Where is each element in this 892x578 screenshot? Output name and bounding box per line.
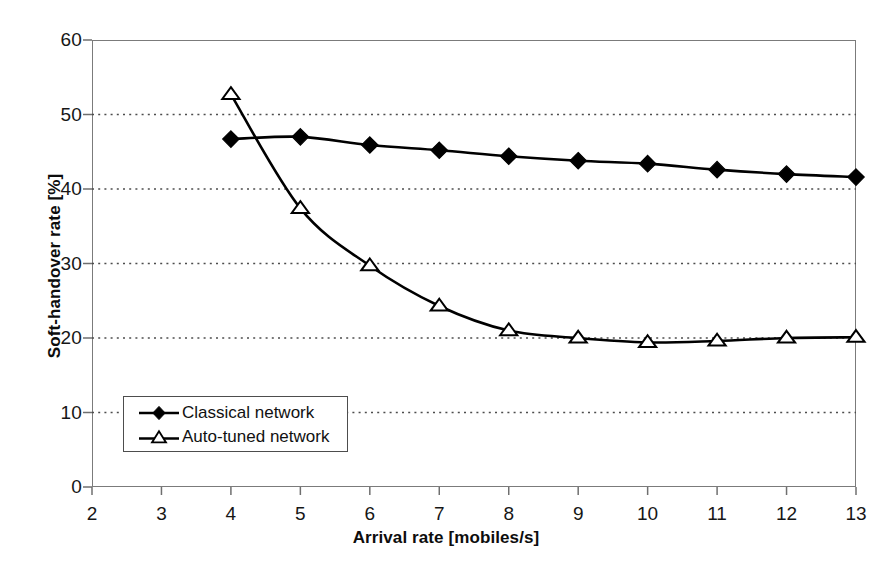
x-tick-label: 8	[487, 504, 531, 523]
chart-figure: 6050403020100 2345678910111213 Arrival r…	[0, 0, 892, 578]
x-tick-label: 3	[139, 504, 183, 523]
legend-item-auto-tuned-network: Auto-tuned network	[136, 425, 347, 449]
chart-legend: Classical network Auto-tuned network	[123, 396, 348, 452]
x-tick-label: 7	[417, 504, 461, 523]
x-tick-label: 11	[695, 504, 739, 523]
x-axis-tick-labels: 2345678910111213	[0, 0, 892, 578]
x-tick-label: 4	[209, 504, 253, 523]
x-tick-label: 5	[278, 504, 322, 523]
open-triangle-marker-icon	[136, 427, 182, 447]
x-tick-label: 2	[70, 504, 114, 523]
legend-label-auto-tuned-network: Auto-tuned network	[182, 428, 329, 446]
x-tick-label: 6	[348, 504, 392, 523]
legend-item-classical-network: Classical network	[136, 401, 347, 425]
filled-diamond-marker-icon	[136, 403, 182, 423]
x-tick-label: 10	[626, 504, 670, 523]
x-tick-label: 12	[765, 504, 809, 523]
y-axis-title: Soft-handover rate [%]	[45, 116, 65, 416]
x-axis-title: Arrival rate [mobiles/s]	[0, 528, 892, 548]
legend-label-classical-network: Classical network	[182, 404, 314, 422]
x-tick-label: 9	[556, 504, 600, 523]
x-tick-label: 13	[834, 504, 878, 523]
